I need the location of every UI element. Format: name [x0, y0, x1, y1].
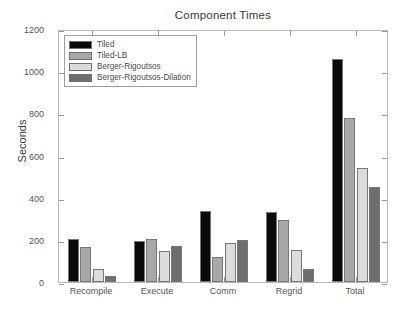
y-tick-mark	[382, 31, 387, 32]
plot-area: 020040060080010001200 TiledTiled-LBBerge…	[58, 30, 388, 283]
y-tick-label: 1000	[4, 67, 44, 77]
y-tick-mark	[382, 200, 387, 201]
bar	[291, 250, 302, 282]
bar	[171, 246, 182, 282]
y-tick-mark	[382, 284, 387, 285]
legend-swatch-icon	[69, 52, 92, 60]
bar	[278, 220, 289, 282]
legend-label: Tiled	[97, 39, 114, 50]
chart-legend: TiledTiled-LBBerger-RigoutsosBerger-Rigo…	[64, 35, 197, 87]
bar	[212, 257, 223, 282]
chart-title: Component Times	[58, 9, 388, 21]
bar	[68, 239, 79, 282]
bar	[93, 269, 104, 282]
bar	[200, 211, 211, 282]
y-tick-label: 400	[4, 194, 44, 204]
y-tick-label: 600	[4, 152, 44, 162]
bar	[332, 59, 343, 282]
bar	[303, 269, 314, 282]
y-tick-mark	[382, 115, 387, 116]
y-tick-mark	[382, 158, 387, 159]
bar	[80, 247, 91, 282]
legend-item: Berger-Rigoutsos	[69, 61, 191, 72]
bar	[134, 241, 145, 282]
y-tick-label: 0	[4, 278, 44, 288]
y-tick-mark	[59, 200, 64, 201]
bar	[159, 251, 170, 282]
y-tick-mark	[382, 73, 387, 74]
y-tick-mark	[59, 284, 64, 285]
legend-item: Tiled	[69, 39, 191, 50]
bar	[266, 212, 277, 282]
bar	[225, 243, 236, 282]
legend-swatch-icon	[69, 41, 92, 49]
legend-item: Berger-Rigoutsos-Dilation	[69, 72, 191, 83]
y-tick-mark	[382, 242, 387, 243]
chart-figure: Component Times Seconds 0200400600800100…	[0, 0, 397, 323]
y-tick-label: 200	[4, 236, 44, 246]
x-tick-mark	[224, 31, 225, 36]
bar	[369, 187, 380, 282]
bar	[105, 276, 116, 282]
y-tick-mark	[59, 115, 64, 116]
bar	[344, 118, 355, 282]
x-tick-label: Total	[315, 286, 395, 296]
y-tick-mark	[59, 242, 64, 243]
y-tick-label: 800	[4, 109, 44, 119]
bar	[357, 168, 368, 282]
legend-label: Berger-Rigoutsos	[97, 61, 161, 72]
bar	[237, 240, 248, 282]
legend-item: Tiled-LB	[69, 50, 191, 61]
legend-label: Tiled-LB	[97, 50, 127, 61]
y-tick-label: 1200	[4, 25, 44, 35]
x-tick-mark	[290, 31, 291, 36]
y-tick-mark	[59, 31, 64, 32]
x-tick-mark	[356, 31, 357, 36]
legend-swatch-icon	[69, 74, 92, 82]
bar	[146, 239, 157, 282]
legend-swatch-icon	[69, 63, 92, 71]
legend-label: Berger-Rigoutsos-Dilation	[97, 72, 191, 83]
y-tick-mark	[59, 158, 64, 159]
